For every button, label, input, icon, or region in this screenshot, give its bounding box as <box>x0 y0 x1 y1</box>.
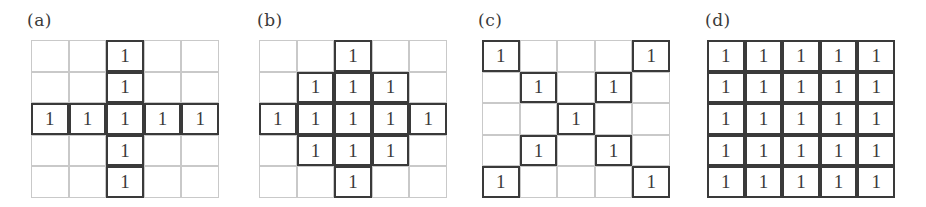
cell-value: 1 <box>348 76 358 98</box>
grid-cell-filled: 1 <box>482 166 520 198</box>
cell-value: 1 <box>195 108 205 130</box>
grid-cell-filled: 1 <box>707 166 745 198</box>
grid-cell-filled: 1 <box>144 103 182 135</box>
grid-cell-filled: 1 <box>106 103 144 135</box>
grid-a: 111111111 <box>31 40 219 198</box>
grid-cell-empty <box>557 72 595 104</box>
cell-value: 1 <box>834 108 844 130</box>
panel-label-b: (b) <box>257 10 283 30</box>
cell-value: 1 <box>759 171 769 193</box>
cell-value: 1 <box>348 171 358 193</box>
grid-cell-filled: 1 <box>857 72 895 104</box>
grid-cell-empty <box>259 166 297 198</box>
grid-cell-filled: 1 <box>782 135 820 167</box>
grid-cell-filled: 1 <box>106 166 144 198</box>
grid-cell-empty <box>409 166 447 198</box>
grid-cell-filled: 1 <box>334 72 372 104</box>
grid-cell-filled: 1 <box>820 40 858 72</box>
grid-cell-empty <box>259 135 297 167</box>
grid-cell-filled: 1 <box>297 135 335 167</box>
grid-cell-empty <box>144 72 182 104</box>
cell-value: 1 <box>311 76 321 98</box>
grid-cell-empty <box>31 166 69 198</box>
cell-value: 1 <box>311 108 321 130</box>
grid-cell-empty <box>632 72 670 104</box>
grid-cell-filled: 1 <box>820 72 858 104</box>
cell-value: 1 <box>386 108 396 130</box>
cell-value: 1 <box>646 45 656 67</box>
grid-cell-empty <box>144 40 182 72</box>
grid-cell-filled: 1 <box>632 40 670 72</box>
grid-cell-filled: 1 <box>334 166 372 198</box>
cell-value: 1 <box>721 76 731 98</box>
grid-cell-empty <box>409 135 447 167</box>
grid-cell-filled: 1 <box>857 166 895 198</box>
cell-value: 1 <box>534 140 544 162</box>
grid-cell-filled: 1 <box>595 72 633 104</box>
grid-cell-filled: 1 <box>820 135 858 167</box>
grid-cell-empty <box>595 166 633 198</box>
cell-value: 1 <box>120 45 130 67</box>
grid-cell-empty <box>557 166 595 198</box>
cell-value: 1 <box>120 76 130 98</box>
grid-cell-filled: 1 <box>106 40 144 72</box>
cell-value: 1 <box>871 76 881 98</box>
panel-label-c: (c) <box>478 10 502 30</box>
cell-value: 1 <box>871 140 881 162</box>
grid-cell-filled: 1 <box>745 103 783 135</box>
grid-cell-empty <box>31 135 69 167</box>
cell-value: 1 <box>646 171 656 193</box>
grid-cell-empty <box>181 166 219 198</box>
cell-value: 1 <box>120 171 130 193</box>
cell-value: 1 <box>348 140 358 162</box>
grid-cell-empty <box>69 135 107 167</box>
grid-cell-empty <box>595 40 633 72</box>
panel-label-a: (a) <box>27 10 52 30</box>
cell-value: 1 <box>796 108 806 130</box>
cell-value: 1 <box>871 171 881 193</box>
cell-value: 1 <box>721 140 731 162</box>
cell-value: 1 <box>834 171 844 193</box>
grid-cell-filled: 1 <box>745 135 783 167</box>
grid-cell-empty <box>557 40 595 72</box>
grid-cell-empty <box>181 72 219 104</box>
grid-cell-filled: 1 <box>782 166 820 198</box>
cell-value: 1 <box>386 140 396 162</box>
grid-cell-filled: 1 <box>745 40 783 72</box>
cell-value: 1 <box>759 108 769 130</box>
cell-value: 1 <box>83 108 93 130</box>
cell-value: 1 <box>571 108 581 130</box>
grid-cell-filled: 1 <box>782 103 820 135</box>
grid-cell-empty <box>520 103 558 135</box>
grid-cell-empty <box>69 40 107 72</box>
cell-value: 1 <box>609 76 619 98</box>
grid-b: 1111111111111 <box>259 40 447 198</box>
cell-value: 1 <box>609 140 619 162</box>
cell-value: 1 <box>311 140 321 162</box>
grid-cell-filled: 1 <box>820 166 858 198</box>
grid-cell-filled: 1 <box>297 103 335 135</box>
grid-cell-filled: 1 <box>857 103 895 135</box>
grid-cell-filled: 1 <box>520 135 558 167</box>
grid-cell-empty <box>31 40 69 72</box>
grid-cell-filled: 1 <box>297 72 335 104</box>
grid-c: 111111111 <box>482 40 670 198</box>
grid-cell-filled: 1 <box>557 103 595 135</box>
grid-cell-filled: 1 <box>707 135 745 167</box>
grid-cell-empty <box>144 166 182 198</box>
cell-value: 1 <box>796 76 806 98</box>
grid-cell-empty <box>520 166 558 198</box>
grid-d: 1111111111111111111111111 <box>707 40 895 198</box>
grid-cell-empty <box>482 72 520 104</box>
grid-cell-empty <box>372 166 410 198</box>
grid-cell-filled: 1 <box>745 72 783 104</box>
grid-cell-filled: 1 <box>745 166 783 198</box>
grid-cell-empty <box>259 40 297 72</box>
grid-cell-empty <box>181 135 219 167</box>
cell-value: 1 <box>273 108 283 130</box>
cell-value: 1 <box>759 76 769 98</box>
cell-value: 1 <box>721 171 731 193</box>
grid-cell-empty <box>482 103 520 135</box>
grid-cell-filled: 1 <box>707 72 745 104</box>
cell-value: 1 <box>796 45 806 67</box>
